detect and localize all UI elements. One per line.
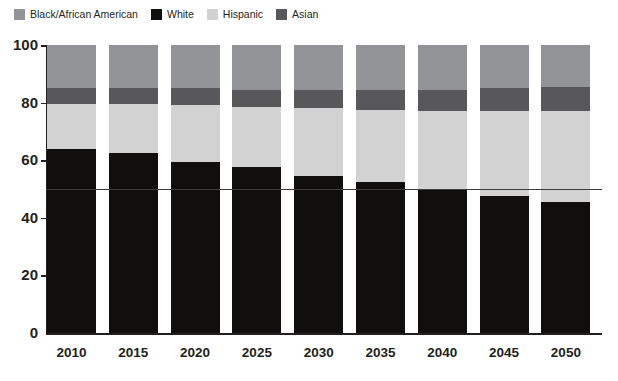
bar-segment-2035-white[interactable] [356,182,405,333]
y-tick-40 [41,218,46,220]
x-tick-label-2040: 2040 [411,345,473,360]
bar-segment-2025-asian[interactable] [232,90,281,107]
y-tick-label-0: 0 [4,324,38,341]
bar-segment-2035-black-african-american[interactable] [356,45,405,90]
bar-segment-2030-black-african-american[interactable] [294,45,343,90]
bar-segment-2020-asian[interactable] [171,88,220,105]
bar-segment-2020-white[interactable] [171,162,220,333]
y-tick-20 [41,275,46,277]
legend-item-hispanic[interactable]: Hispanic [207,9,263,20]
bar-segment-2050-asian[interactable] [541,87,590,111]
x-tick-label-2045: 2045 [473,345,535,360]
x-tick-label-2025: 2025 [226,345,288,360]
bar-segment-2040-white[interactable] [418,190,467,333]
bar-segment-2040-asian[interactable] [418,90,467,112]
bar-segment-2050-black-african-american[interactable] [541,45,590,87]
stacked-bar-chart: Black/African American White Hispanic As… [0,0,618,381]
bar-segment-2030-hispanic[interactable] [294,108,343,176]
bar-segment-2035-asian[interactable] [356,90,405,110]
y-tick-label-20: 20 [4,266,38,283]
y-tick-label-80: 80 [4,94,38,111]
x-tick-label-2030: 2030 [288,345,350,360]
bar-segment-2025-hispanic[interactable] [232,107,281,167]
x-tick-label-2015: 2015 [102,345,164,360]
bar-segment-2045-white[interactable] [480,196,529,333]
bar-segment-2015-white[interactable] [109,153,158,333]
bar-segment-2035-hispanic[interactable] [356,110,405,182]
legend-label-white: White [167,9,194,20]
bar-segment-2025-black-african-american[interactable] [232,45,281,90]
bar-segment-2010-white[interactable] [47,149,96,333]
x-tick-label-2010: 2010 [41,345,103,360]
bar-segment-2045-asian[interactable] [480,88,529,111]
bar-segment-2050-white[interactable] [541,202,590,333]
reference-line-50 [46,189,602,190]
x-tick-label-2050: 2050 [535,345,597,360]
bar-segment-2015-asian[interactable] [109,88,158,104]
legend-label-asian: Asian [292,9,318,20]
bar-segment-2040-hispanic[interactable] [418,111,467,190]
legend-swatch-white [151,9,162,20]
bar-segment-2020-black-african-american[interactable] [171,45,220,88]
legend-swatch-asian [276,9,287,20]
bar-segment-2020-hispanic[interactable] [171,105,220,161]
y-tick-100 [41,45,46,47]
y-tick-label-40: 40 [4,209,38,226]
bar-segment-2010-black-african-american[interactable] [47,45,96,88]
y-tick-60 [41,160,46,162]
legend-swatch-hispanic [207,9,218,20]
bar-segment-2040-black-african-american[interactable] [418,45,467,90]
bar-segment-2025-white[interactable] [232,167,281,333]
x-axis-line [46,333,602,335]
bar-segment-2010-hispanic[interactable] [47,104,96,149]
x-tick-label-2020: 2020 [164,345,226,360]
bar-segment-2030-asian[interactable] [294,90,343,109]
y-axis-labels: 100806040200 [0,0,38,381]
y-tick-label-100: 100 [4,36,38,53]
bar-segment-2015-hispanic[interactable] [109,104,158,153]
legend-label-hispanic: Hispanic [223,9,263,20]
bar-segment-2030-white[interactable] [294,176,343,333]
chart-legend: Black/African American White Hispanic As… [14,7,331,21]
bar-segment-2045-black-african-american[interactable] [480,45,529,88]
bar-segment-2045-hispanic[interactable] [480,111,529,196]
x-tick-label-2035: 2035 [350,345,412,360]
legend-item-asian[interactable]: Asian [276,9,318,20]
bar-segment-2010-asian[interactable] [47,88,96,104]
legend-item-white[interactable]: White [151,9,194,20]
y-tick-80 [41,103,46,105]
legend-label-black-african-american: Black/African American [30,9,138,20]
y-tick-label-60: 60 [4,151,38,168]
bar-segment-2015-black-african-american[interactable] [109,45,158,88]
